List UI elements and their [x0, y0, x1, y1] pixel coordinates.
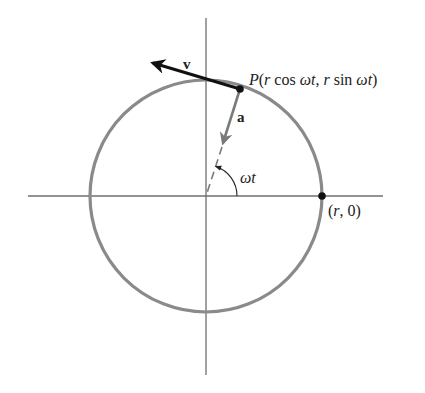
- point-r0: [318, 192, 326, 200]
- circular-motion-diagram: v a P(r cos ωt, r sin ωt) ωt (r, 0): [0, 0, 425, 393]
- point-P: [236, 85, 244, 93]
- radius-dashed-line: [206, 147, 222, 196]
- acceleration-label: a: [237, 109, 245, 125]
- point-r0-label: (r, 0): [328, 202, 361, 220]
- angle-arc: [216, 167, 237, 197]
- point-P-label: P(r cos ωt, r sin ωt): [248, 71, 377, 89]
- velocity-label: v: [183, 56, 191, 72]
- angle-label: ωt: [240, 169, 256, 186]
- velocity-vector: [153, 63, 240, 89]
